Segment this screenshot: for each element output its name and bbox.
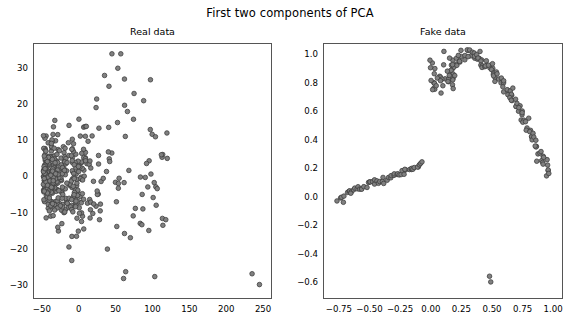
scatter-point <box>117 176 122 181</box>
scatter-point <box>63 146 68 151</box>
scatter-point <box>69 153 74 158</box>
scatter-point <box>106 150 111 155</box>
scatter-point <box>51 125 56 130</box>
scatter-point <box>110 52 115 57</box>
scatter-point <box>148 77 153 82</box>
scatter-point <box>152 274 157 279</box>
x-tick-label: 0.75 <box>513 304 532 314</box>
scatter-point <box>523 119 528 124</box>
scatter-point <box>541 155 546 160</box>
scatter-point <box>80 178 85 183</box>
scatter-point <box>429 78 434 83</box>
y-tick-label: −0.4 <box>297 249 318 259</box>
scatter-point <box>144 161 149 166</box>
scatter-point <box>55 225 60 230</box>
scatter-point <box>114 199 119 204</box>
scatter-point <box>71 184 76 189</box>
scatter-point <box>71 210 76 215</box>
scatter-point <box>155 186 160 191</box>
scatter-point <box>98 209 103 214</box>
scatter-point <box>76 169 81 174</box>
scatter-point <box>148 127 153 132</box>
scatter-point <box>97 217 102 222</box>
scatter-point <box>104 169 109 174</box>
scatter-point <box>75 216 80 221</box>
scatter-point <box>495 71 500 76</box>
scatter-point <box>541 162 546 167</box>
scatter-point <box>106 125 111 130</box>
scatter-point <box>79 151 84 156</box>
scatter-point <box>534 159 539 164</box>
scatter-point <box>41 133 46 138</box>
scatter-point <box>76 229 81 234</box>
scatter-point <box>60 192 65 197</box>
scatter-point <box>154 203 159 208</box>
scatter-point <box>88 159 93 164</box>
scatter-point <box>342 194 347 199</box>
scatter-point <box>457 59 462 64</box>
scatter-point <box>141 207 146 212</box>
x-tick-label: 0.00 <box>421 304 440 314</box>
scatter-point <box>114 224 119 229</box>
scatter-point <box>60 221 65 226</box>
scatter-point <box>403 167 408 172</box>
scatter-point <box>442 49 447 54</box>
scatter-point <box>511 86 516 91</box>
scatter-point <box>66 140 71 145</box>
y-tick-label: −0.6 <box>297 277 318 287</box>
x-tick-label: −0.25 <box>387 304 413 314</box>
y-tick-label: 0.4 <box>304 135 318 145</box>
scatter-point <box>509 98 514 103</box>
scatter-point <box>69 258 74 263</box>
scatter-point <box>165 131 170 136</box>
x-tick-label: 50 <box>110 304 121 314</box>
scatter-point <box>161 223 166 228</box>
y-tick-label: −10 <box>10 208 28 218</box>
scatter-point <box>430 87 435 92</box>
x-tick-label: 150 <box>181 304 197 314</box>
scatter-point <box>138 175 143 180</box>
x-tick-label: 200 <box>218 304 234 314</box>
scatter-point <box>122 103 127 108</box>
y-tick-label: 10 <box>17 135 28 145</box>
x-tick-label: −0.75 <box>326 304 352 314</box>
scatter-point <box>55 152 60 157</box>
scatter-point <box>105 247 110 252</box>
scatter-point <box>365 185 370 190</box>
scatter-point <box>122 77 127 82</box>
y-tick-label: 0.8 <box>304 78 318 88</box>
scatter-point <box>90 134 95 139</box>
scatter-point <box>165 156 170 161</box>
scatter-point <box>131 214 136 219</box>
scatter-point <box>122 231 127 236</box>
scatter-point <box>52 208 57 213</box>
scatter-point <box>420 160 425 165</box>
scatter-point <box>545 163 550 168</box>
scatter-point <box>133 206 138 211</box>
scatter-point <box>98 202 103 207</box>
scatter-point <box>91 179 96 184</box>
subplot-title-fake: Fake data <box>323 26 563 37</box>
scatter-point <box>52 146 57 151</box>
scatter-point <box>81 197 86 202</box>
scatter-point <box>141 98 146 103</box>
scatter-point <box>439 91 444 96</box>
scatter-point <box>121 276 126 281</box>
scatter-point <box>70 234 75 239</box>
scatter-point <box>539 149 544 154</box>
scatter-point <box>47 196 52 201</box>
x-tick-label: −0.50 <box>356 304 382 314</box>
scatter-point <box>51 213 56 218</box>
scatter-point <box>53 172 58 177</box>
scatter-point <box>128 235 133 240</box>
scatter-point <box>44 149 49 154</box>
scatter-point <box>115 120 120 125</box>
scatter-point <box>140 222 145 227</box>
scatter-point <box>70 158 75 163</box>
scatter-point <box>63 210 68 215</box>
scatter-point <box>88 216 93 221</box>
scatter-point <box>122 180 127 185</box>
scatter-point <box>250 271 255 276</box>
scatter-point <box>501 79 506 84</box>
scatter-point <box>450 62 455 67</box>
